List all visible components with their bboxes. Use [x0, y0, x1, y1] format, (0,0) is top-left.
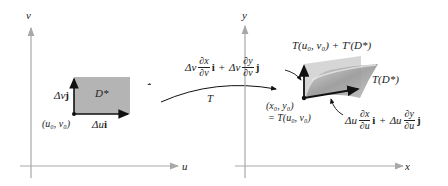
partial-fraction: ∂x∂u [359, 109, 370, 131]
term-delta: Δv [229, 62, 240, 73]
y-axis-label: y [242, 10, 247, 21]
delta-v-j-label: Δvj [54, 90, 69, 101]
base-point-label-line1: (x₀, y₀) [266, 101, 294, 111]
point-x0-y0 [302, 96, 306, 100]
numerator: ∂y [242, 56, 253, 68]
diagram: v u D* Δvj Δui (u₀, v₀) T y x T(u₀, v₀) … [0, 0, 448, 186]
denominator: ∂u [404, 121, 414, 132]
point-u0-v0-label: (u₀, v₀) [42, 119, 70, 129]
plus-sign: + [219, 62, 225, 73]
delta-u-i-label: Δui [92, 119, 107, 130]
unit-i: i [372, 115, 375, 126]
u-axis-label: u [182, 161, 188, 172]
numerator: ∂y [404, 109, 415, 121]
denominator: ∂v [243, 68, 252, 79]
stray-mark [147, 83, 151, 85]
unit-j: j [417, 115, 421, 126]
plus-sign: + [379, 115, 385, 126]
point-u0-v0 [72, 112, 76, 116]
term-delta: Δv [185, 62, 196, 73]
numerator: ∂x [359, 109, 370, 121]
denominator: ∂v [199, 68, 208, 79]
mapping-t-arrow [161, 86, 276, 102]
partial-fraction: ∂y∂v [242, 56, 253, 78]
term-delta: Δu [390, 115, 402, 126]
x-axis-label: x [405, 161, 410, 172]
unit-i: i [104, 118, 107, 130]
image-region-label: T(D*) [372, 74, 399, 85]
base-point-label-line2: = T(u₀, v₀) [268, 113, 311, 123]
parallelogram-label: T(u₀, v₀) + T′(D*) [292, 40, 371, 51]
unit-j: j [256, 62, 260, 73]
v-vector-formula: Δv ∂x∂v i + Δv ∂y∂v j [185, 56, 259, 78]
region-label: D* [95, 88, 108, 99]
numerator: ∂x [198, 56, 209, 68]
unit-j: j [65, 89, 69, 101]
leader-v-vector [285, 70, 301, 80]
delta-u: Δu [92, 118, 104, 130]
delta-v: Δv [54, 89, 65, 101]
partial-fraction: ∂x∂v [198, 56, 209, 78]
denominator: ∂u [360, 121, 370, 132]
u-vector-formula: Δu ∂x∂u i + Δu ∂y∂u j [345, 109, 421, 131]
unit-i: i [212, 62, 215, 73]
mapping-label: T [207, 93, 213, 104]
leader-u-vector [331, 99, 343, 115]
partial-fraction: ∂y∂u [404, 109, 415, 131]
v-axis-label: v [26, 10, 31, 21]
term-delta: Δu [345, 115, 357, 126]
